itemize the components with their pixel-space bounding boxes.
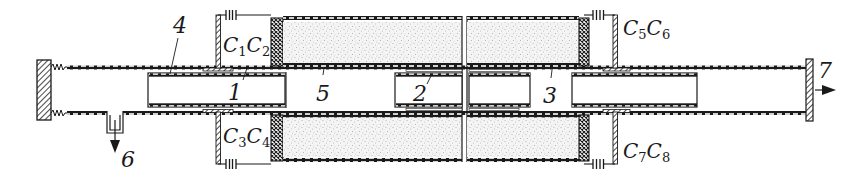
inner-tube-2b	[469, 70, 530, 111]
arrow-right-icon	[815, 85, 836, 95]
label-6: 6	[121, 147, 135, 172]
label-c7-c8: C7C8	[623, 139, 670, 165]
label-5: 5	[316, 81, 330, 106]
label-c5-c6: C5C6	[623, 16, 670, 42]
capacitor-icon	[593, 159, 604, 169]
capacitor-icon	[593, 10, 604, 20]
label-c3-c4: C3C4	[223, 124, 270, 150]
capacitor-icon	[226, 159, 236, 169]
capacitor-icon	[226, 10, 236, 20]
leader-3	[551, 70, 552, 78]
inner-tube-1	[148, 73, 285, 107]
label-4: 4	[172, 13, 187, 38]
label-c1-c2: C1C2	[223, 33, 270, 59]
right-end-cap	[806, 59, 813, 121]
arrow-down-icon	[110, 120, 120, 153]
spring-icon	[51, 64, 68, 116]
coaxial-device-diagram: 6 4 1 C1C2 C3C4	[0, 0, 866, 177]
inner-tube-right	[572, 73, 697, 107]
left-end-cap	[37, 60, 51, 120]
label-2: 2	[412, 81, 427, 106]
label-1: 1	[228, 80, 242, 105]
label-3: 3	[543, 83, 557, 108]
inner-tube-2	[395, 70, 462, 111]
label-7: 7	[818, 58, 832, 83]
